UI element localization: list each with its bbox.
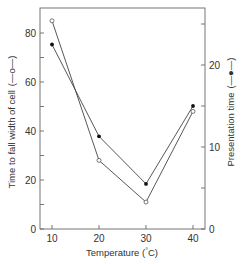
chart: 020406080 01020 10203040 Temperature (°C… bbox=[0, 0, 250, 264]
filled-circle-marker bbox=[191, 104, 195, 108]
open-circle-marker bbox=[144, 200, 148, 204]
x-axis: 10203040 bbox=[46, 225, 199, 244]
series-line bbox=[52, 45, 193, 184]
y-tick-label: 40 bbox=[25, 126, 37, 137]
y-tick-label: 80 bbox=[25, 28, 37, 39]
y2-tick-label: 0 bbox=[209, 224, 215, 235]
open-circle-marker bbox=[97, 158, 101, 162]
x-tick-label: 10 bbox=[46, 233, 58, 244]
left-axis: 020406080 bbox=[25, 28, 44, 235]
y2-tick-label: 20 bbox=[209, 60, 221, 71]
open-circle-marker bbox=[50, 19, 54, 23]
filled-circle-marker bbox=[144, 182, 148, 186]
series-group bbox=[50, 19, 195, 204]
filled-circle-marker bbox=[50, 43, 54, 47]
x-axis-title: Temperature (°C) bbox=[86, 247, 158, 258]
y-tick-label: 20 bbox=[25, 175, 37, 186]
y-tick-label: 0 bbox=[30, 224, 36, 235]
y2-tick-label: 10 bbox=[209, 142, 221, 153]
x-tick-label: 40 bbox=[187, 233, 199, 244]
series-line bbox=[52, 21, 193, 202]
plot-frame bbox=[40, 8, 205, 229]
open-circle-marker bbox=[191, 109, 195, 113]
y2-axis-title: Presentation time(—●—) bbox=[225, 57, 236, 166]
y-tick-label: 60 bbox=[25, 77, 37, 88]
x-tick-label: 20 bbox=[93, 233, 105, 244]
filled-circle-marker bbox=[97, 134, 101, 138]
x-tick-label: 30 bbox=[140, 233, 152, 244]
y-axis-title: Time to fall width of cell(—o—) bbox=[6, 55, 17, 188]
right-axis: 01020 bbox=[201, 24, 221, 235]
